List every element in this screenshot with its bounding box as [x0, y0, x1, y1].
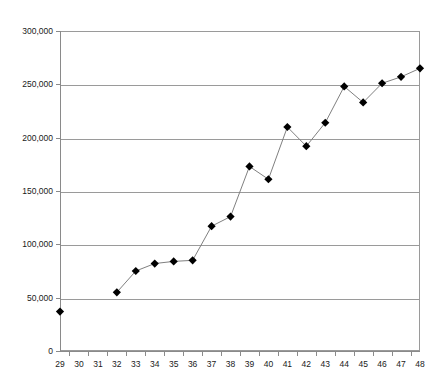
x-tick-mark — [164, 352, 165, 356]
x-tick-mark — [297, 352, 298, 356]
y-axis-line — [60, 31, 61, 351]
line-chart: 050,000100,000150,000200,000250,000300,0… — [0, 0, 442, 381]
x-tick-mark — [107, 352, 108, 356]
x-tick-mark — [411, 352, 412, 356]
x-tick-mark — [240, 352, 241, 356]
y-tick-label: 250,000 — [22, 80, 53, 89]
x-tick-mark — [392, 352, 393, 356]
y-tick-label: 100,000 — [22, 240, 53, 249]
x-tick-mark — [126, 352, 127, 356]
y-tick-label: 200,000 — [22, 134, 53, 143]
y-tick-label: 0 — [48, 347, 53, 356]
gridline-y — [61, 245, 419, 246]
gridline-y — [61, 85, 419, 86]
plot-area — [60, 31, 420, 351]
x-tick-mark — [316, 352, 317, 356]
x-tick-label: 48 — [408, 360, 432, 369]
x-tick-mark — [354, 352, 355, 356]
y-tick-label: 300,000 — [22, 27, 53, 36]
gridline-y — [61, 139, 419, 140]
x-tick-mark — [373, 352, 374, 356]
y-tick-label: 150,000 — [22, 187, 53, 196]
x-tick-mark — [259, 352, 260, 356]
x-tick-mark — [145, 352, 146, 356]
x-tick-mark — [69, 352, 70, 356]
gridline-y — [61, 299, 419, 300]
x-tick-mark — [202, 352, 203, 356]
x-tick-mark — [221, 352, 222, 356]
x-tick-mark — [335, 352, 336, 356]
x-tick-mark — [183, 352, 184, 356]
x-tick-mark — [278, 352, 279, 356]
gridline-y — [61, 192, 419, 193]
x-tick-mark — [88, 352, 89, 356]
y-tick-label: 50,000 — [27, 294, 53, 303]
